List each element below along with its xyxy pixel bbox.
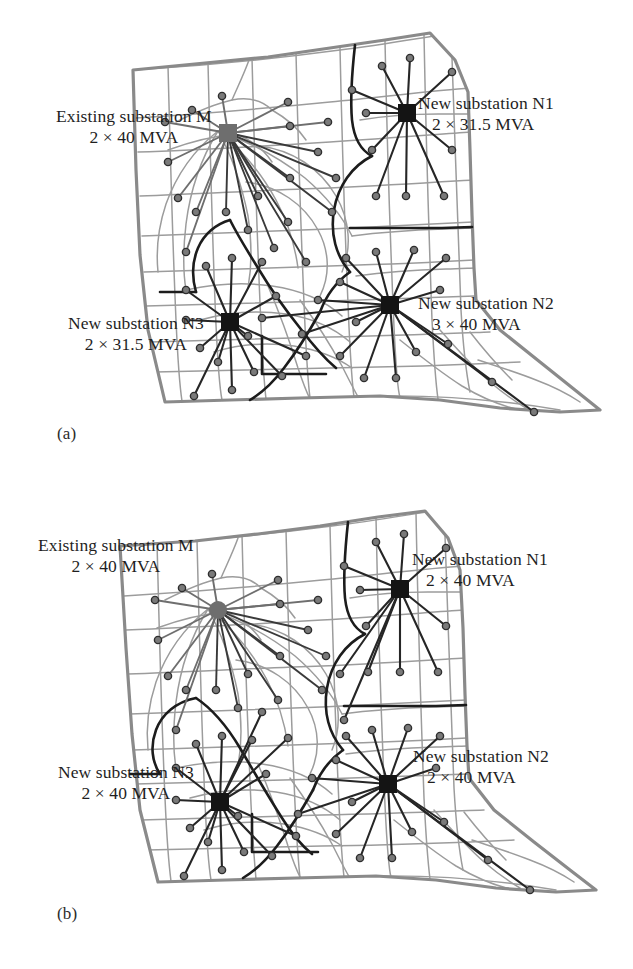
label-capacity: 2 × 40 MVA (58, 783, 194, 804)
label-new-substation-n3: New substation N3 2 × 31.5 MVA (68, 313, 204, 355)
label-capacity: 2 × 40 MVA (413, 767, 549, 788)
substation-marker-n1 (398, 104, 416, 122)
label-new-substation-n3: New substation N3 2 × 40 MVA (58, 762, 194, 804)
service-area-boundary-a (133, 33, 600, 412)
label-title: Existing substation M (38, 535, 194, 556)
label-new-substation-n2: New substation N2 3 × 40 MVA (418, 293, 554, 335)
label-title: Existing substation M (56, 106, 212, 127)
panel-b: Existing substation M 2 × 40 MVA New sub… (0, 484, 633, 969)
substation-marker-n1 (391, 580, 409, 598)
substation-marker-n2 (379, 775, 397, 793)
label-capacity: 2 × 40 MVA (56, 127, 212, 148)
figure-two-panel-substation-maps: Existing substation M 2 × 40 MVA New sub… (0, 0, 633, 969)
label-title: New substation N1 (412, 549, 548, 570)
label-title: New substation N1 (418, 93, 554, 114)
label-title: New substation N3 (68, 313, 204, 334)
panel-a: Existing substation M 2 × 40 MVA New sub… (0, 0, 633, 485)
label-new-substation-n1: New substation N1 2 × 31.5 MVA (418, 93, 554, 135)
label-title: New substation N3 (58, 762, 194, 783)
substation-marker-n3 (211, 793, 229, 811)
label-new-substation-n2: New substation N2 2 × 40 MVA (413, 746, 549, 788)
panel-a-map (0, 0, 633, 485)
label-capacity: 2 × 31.5 MVA (68, 334, 204, 355)
label-title: New substation N2 (413, 746, 549, 767)
label-new-substation-n1: New substation N1 2 × 40 MVA (412, 549, 548, 591)
label-capacity: 2 × 31.5 MVA (418, 114, 554, 135)
panel-caption-b: (b) (57, 904, 77, 924)
label-capacity: 2 × 40 MVA (38, 556, 194, 577)
label-capacity: 3 × 40 MVA (418, 314, 554, 335)
label-existing-substation-m: Existing substation M 2 × 40 MVA (38, 535, 194, 577)
substation-marker-existing-m (209, 601, 227, 619)
label-title: New substation N2 (418, 293, 554, 314)
label-existing-substation-m: Existing substation M 2 × 40 MVA (56, 106, 212, 148)
substation-marker-existing-m (219, 124, 237, 142)
label-capacity: 2 × 40 MVA (412, 570, 548, 591)
substation-marker-n2 (381, 296, 399, 314)
panel-caption-a: (a) (57, 424, 76, 444)
substation-marker-n3 (221, 313, 239, 331)
